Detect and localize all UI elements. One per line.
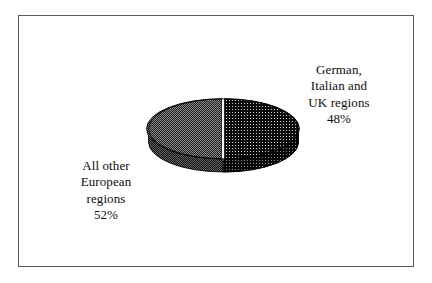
pie-chart-graphic bbox=[0, 0, 432, 283]
pie-label-line-1: German, bbox=[275, 62, 403, 78]
pie-chart: German, Italian and UK regions 48% All o… bbox=[0, 0, 432, 283]
pie-label-value: 52% bbox=[42, 207, 170, 223]
pie-label-german-italian-uk: German, Italian and UK regions 48% bbox=[275, 62, 403, 128]
pie-label-line-3: regions bbox=[42, 191, 170, 207]
pie-label-line-3: UK regions bbox=[275, 95, 403, 111]
pie-label-line-2: European bbox=[42, 174, 170, 190]
pie-label-line-2: Italian and bbox=[275, 78, 403, 94]
pie-label-value: 48% bbox=[275, 111, 403, 127]
pie-label-line-1: All other bbox=[42, 158, 170, 174]
pie-label-all-other-european: All other European regions 52% bbox=[42, 158, 170, 224]
